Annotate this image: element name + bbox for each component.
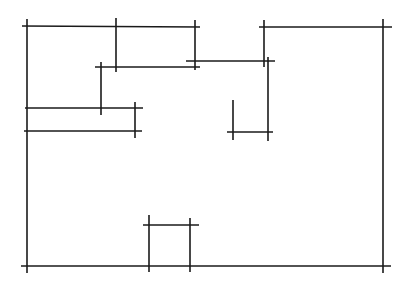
floor-plan-diagram xyxy=(0,0,407,295)
outer-top-left-wall-line xyxy=(22,26,200,27)
